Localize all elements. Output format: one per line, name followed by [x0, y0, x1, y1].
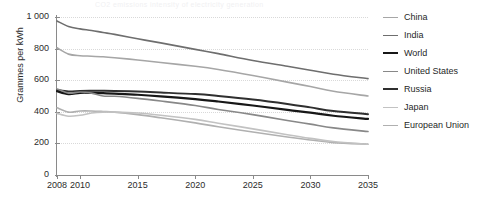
x-tick [195, 175, 196, 179]
legend-swatch-icon [383, 35, 398, 36]
legend-swatch-icon [383, 88, 398, 90]
legend-label: Japan [404, 102, 429, 112]
legend-label: World [404, 48, 427, 58]
x-tick-label: 2025 [243, 180, 263, 190]
y-tick-label: 0 [44, 169, 49, 179]
x-tick [253, 175, 254, 179]
legend-swatch-icon [383, 71, 398, 72]
x-tick-label: 2008 [47, 180, 67, 190]
x-tick [368, 175, 369, 179]
series-lines [57, 17, 368, 175]
chart-root: CO2 emissions intensity of electricity g… [0, 0, 477, 211]
legend-item-china[interactable]: China [383, 8, 477, 26]
legend-label: India [404, 30, 424, 40]
y-tick-label: 400 [34, 106, 49, 116]
legend-swatch-icon [383, 107, 398, 108]
legend-item-european-union[interactable]: European Union [383, 116, 477, 134]
y-tick-label: 600 [34, 74, 49, 84]
x-axis-line [56, 175, 369, 176]
y-tick-label: 1 000 [26, 11, 49, 21]
legend-item-world[interactable]: World [383, 44, 477, 62]
legend-swatch-icon [383, 52, 398, 54]
legend-item-united-states[interactable]: United States [383, 62, 477, 80]
legend-item-india[interactable]: India [383, 26, 477, 44]
plot-area: 02004006008001 000 [57, 17, 368, 175]
x-tick [310, 175, 311, 179]
chart-title-faint: CO2 emissions intensity of electricity g… [95, 0, 345, 9]
legend-label: Russia [404, 84, 432, 94]
legend-item-russia[interactable]: Russia [383, 80, 477, 98]
x-tick-label: 2020 [185, 180, 205, 190]
y-tick-label: 800 [34, 43, 49, 53]
legend-label: China [404, 12, 428, 22]
x-tick [138, 175, 139, 179]
series-line [57, 21, 368, 79]
legend-swatch-icon [383, 17, 398, 18]
y-tick-label: 200 [34, 137, 49, 147]
x-tick-label: 2010 [70, 180, 90, 190]
legend-label: United States [404, 66, 458, 76]
series-line [57, 112, 368, 144]
x-tick-label: 2030 [300, 180, 320, 190]
legend-item-japan[interactable]: Japan [383, 98, 477, 116]
x-tick [57, 175, 58, 179]
y-axis-label: Grammes per kWh [15, 5, 25, 125]
x-tick-label: 2015 [128, 180, 148, 190]
legend-label: European Union [404, 120, 469, 130]
x-tick-label: 2035 [358, 180, 378, 190]
x-tick [80, 175, 81, 179]
legend-swatch-icon [383, 125, 398, 126]
chart-legend: ChinaIndiaWorldUnited StatesRussiaJapanE… [383, 8, 477, 134]
